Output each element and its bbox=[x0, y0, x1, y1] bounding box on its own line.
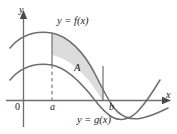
label-upper-curve: y = f(x) bbox=[57, 16, 89, 27]
label-region-A: A bbox=[74, 63, 80, 74]
label-origin: 0 bbox=[15, 102, 20, 112]
label-bound-b: b bbox=[109, 102, 114, 112]
label-x-axis: x bbox=[166, 90, 170, 100]
label-lower-curve: y = g(x) bbox=[77, 115, 111, 126]
label-y-axis: y bbox=[19, 5, 23, 15]
area-between-curves-figure: y = f(x) y = g(x) A y x 0 a b bbox=[0, 0, 177, 134]
label-bound-a: a bbox=[50, 102, 55, 112]
